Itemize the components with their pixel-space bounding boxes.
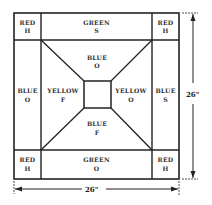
trapezoid-bottom-color: BLUE (87, 120, 107, 127)
border-right-code: S (163, 96, 168, 103)
trapezoid-top-code: O (94, 62, 100, 69)
corner-bottom-left-color: RED (20, 156, 36, 163)
border-bottom-color: GREEN (83, 156, 110, 163)
trapezoid-bottom-code: F (95, 129, 100, 136)
border-top-color: GREEN (83, 19, 110, 26)
height-dimension-label: 26" (186, 90, 199, 99)
border-right-color: BLUE (155, 87, 175, 94)
border-left-code: O (25, 96, 31, 103)
width-dimension-label: 26" (85, 185, 98, 194)
diagonal-bottom-left (41, 108, 84, 150)
diagonal-top-left (41, 40, 84, 81)
outer-border (14, 13, 179, 179)
diagonal-bottom-right (111, 108, 152, 150)
border-top-code: S (94, 27, 99, 34)
arrow-left-icon (15, 187, 22, 192)
corner-top-right-color: RED (158, 19, 174, 26)
arrow-up-icon (191, 14, 196, 21)
corner-top-right-code: H (162, 27, 168, 34)
trapezoid-top-color: BLUE (87, 54, 107, 61)
arrow-right-icon (171, 187, 178, 192)
trapezoid-right-code: O (128, 96, 134, 103)
trapezoid-right-color: YELLOW (114, 87, 147, 94)
corner-bottom-right-color: RED (158, 156, 174, 163)
corner-top-left-code: H (24, 27, 30, 34)
corner-top-left-color: RED (20, 19, 36, 26)
arrow-down-icon (191, 171, 196, 178)
trapezoid-left-code: F (61, 96, 66, 103)
center-square (84, 81, 111, 108)
trapezoid-left-color: YELLOW (46, 87, 79, 94)
corner-bottom-right-code: H (162, 165, 168, 172)
corner-bottom-left-code: H (24, 165, 30, 172)
diagonal-top-right (111, 40, 152, 81)
border-bottom-code: O (94, 165, 100, 172)
border-left-color: BLUE (17, 87, 37, 94)
quilt-block-diagram: RED H RED H RED H RED H GREEN S GREEN O … (0, 0, 212, 205)
